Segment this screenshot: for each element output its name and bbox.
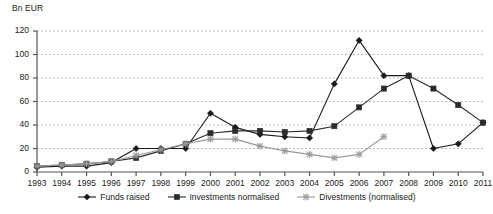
- data-point: [431, 86, 436, 91]
- data-point: [182, 140, 189, 147]
- data-point: [207, 136, 214, 143]
- legend-marker-icon: [296, 192, 316, 202]
- data-point: [133, 145, 139, 151]
- data-point: [233, 128, 238, 133]
- chart-legend: Funds raisedInvestments normalisedDivest…: [0, 192, 493, 202]
- data-point: [356, 151, 363, 158]
- data-point: [133, 152, 140, 159]
- data-point: [430, 145, 436, 151]
- legend-item[interactable]: Funds raised: [77, 192, 149, 202]
- data-point: [306, 151, 313, 158]
- legend-item[interactable]: Divestments (normalised): [296, 192, 415, 202]
- legend-label: Divestments (normalised): [319, 192, 415, 202]
- data-point: [58, 162, 65, 169]
- data-point: [331, 81, 337, 87]
- data-point: [281, 147, 288, 154]
- data-point: [456, 102, 461, 107]
- data-point: [34, 163, 41, 170]
- data-point: [307, 128, 312, 133]
- data-point: [282, 129, 287, 134]
- legend-label: Funds raised: [100, 192, 149, 202]
- plot-area: [0, 0, 493, 214]
- data-point: [331, 155, 338, 162]
- legend-marker-icon: [77, 192, 97, 202]
- legend-item[interactable]: Investments normalised: [167, 192, 280, 202]
- data-point: [357, 105, 362, 110]
- data-point: [208, 131, 213, 136]
- data-point: [381, 86, 386, 91]
- data-point: [83, 160, 90, 167]
- legend-label: Investments normalised: [190, 192, 280, 202]
- data-point: [306, 135, 312, 141]
- legend-marker-icon: [167, 192, 187, 202]
- data-point: [380, 133, 387, 140]
- data-point: [257, 143, 264, 150]
- data-point: [332, 124, 337, 129]
- chart-container: Bn EUR 020406080100120 19931994199519961…: [0, 0, 493, 214]
- data-point: [480, 120, 485, 125]
- data-point: [232, 136, 239, 143]
- data-point: [157, 146, 164, 153]
- data-point: [406, 73, 411, 78]
- data-point: [257, 128, 262, 133]
- series-line: [37, 76, 483, 166]
- data-point: [108, 158, 115, 165]
